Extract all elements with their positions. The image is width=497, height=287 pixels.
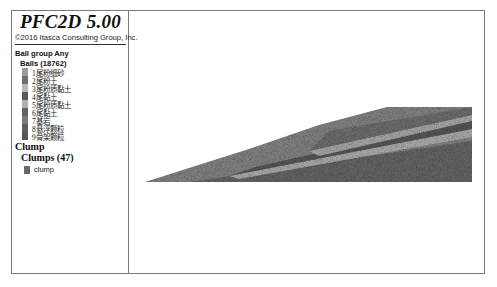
legend-item-9[interactable]: 9骨架颗粒 (22, 132, 71, 140)
title-separator (15, 44, 126, 45)
ball-group-list: 1尾粉细砂 2尾粉土 3尾粉质黏土 4尾黏土 5尾粉质黏土 6尾黏土 (22, 68, 71, 140)
legend-item-label: 9骨架颗粒 (32, 131, 64, 142)
color-swatch (22, 100, 28, 108)
plot-frame: PFC2D 5.00 ©2016 Itasca Consulting Group… (11, 10, 485, 274)
ball-group-heading: Ball group Any (15, 49, 69, 58)
color-swatch (22, 68, 28, 76)
color-swatch (22, 108, 28, 116)
color-swatch (22, 124, 28, 132)
particle-pile-graphic (129, 11, 484, 273)
color-swatch (22, 84, 28, 92)
color-swatch (22, 76, 28, 84)
color-swatch (22, 116, 28, 124)
clumps-count-heading: Clumps (47) (21, 152, 74, 163)
legend-item-label: clump (34, 165, 54, 174)
legend-item-clump[interactable]: clump (24, 165, 54, 174)
app-title: PFC2D 5.00 (12, 11, 129, 33)
clump-heading: Clump (15, 141, 44, 152)
copyright-text: ©2016 Itasca Consulting Group, Inc. (15, 33, 138, 42)
color-swatch (22, 92, 28, 100)
color-swatch (24, 166, 30, 174)
color-swatch (22, 132, 28, 140)
legend-panel: PFC2D 5.00 ©2016 Itasca Consulting Group… (12, 11, 129, 273)
model-viewport[interactable] (129, 11, 484, 273)
